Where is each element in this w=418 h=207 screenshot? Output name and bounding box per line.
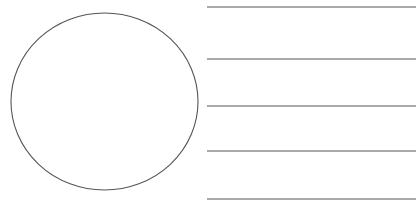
ruled-lines-group <box>207 7 416 199</box>
circle-shape <box>11 13 198 190</box>
figure-canvas <box>0 0 418 207</box>
